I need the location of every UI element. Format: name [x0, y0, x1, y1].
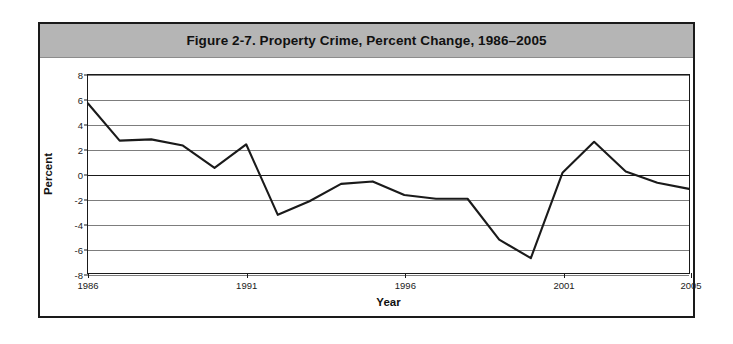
y-tick-label: 0 — [78, 170, 83, 181]
y-tick-label: 8 — [78, 70, 83, 81]
y-axis-label: Percent — [42, 153, 54, 195]
y-tick-label: -8 — [75, 270, 83, 281]
x-tick-mark — [691, 273, 692, 278]
x-tick-label: 2005 — [680, 280, 701, 291]
y-tick-label: 6 — [78, 95, 83, 106]
figure-title-band: Figure 2-7. Property Crime, Percent Chan… — [40, 24, 693, 58]
data-series-line — [88, 75, 689, 273]
page-title: Figure 2-7. Property Crime, Percent Chan… — [186, 33, 546, 48]
plot-wrapper: Percent 86420-2-4-6-8 198619911996200120… — [40, 58, 693, 320]
y-tick-label: -6 — [75, 245, 83, 256]
x-tick-mark — [564, 273, 565, 278]
x-tick-mark — [88, 273, 89, 278]
x-tick-label: 1996 — [395, 280, 416, 291]
plot-area: 86420-2-4-6-8 19861991199620012005 — [87, 74, 690, 274]
x-axis-label: Year — [87, 296, 690, 308]
x-tick-label: 1991 — [236, 280, 257, 291]
x-tick-label: 1986 — [77, 280, 98, 291]
y-tick-label: -4 — [75, 220, 83, 231]
figure-container: Figure 2-7. Property Crime, Percent Chan… — [38, 22, 695, 318]
x-tick-mark — [247, 273, 248, 278]
y-tick-label: -2 — [75, 195, 83, 206]
x-tick-mark — [405, 273, 406, 278]
x-tick-label: 2001 — [553, 280, 574, 291]
y-tick-label: 4 — [78, 120, 83, 131]
gridline--8 — [88, 275, 689, 276]
y-tick-label: 2 — [78, 145, 83, 156]
